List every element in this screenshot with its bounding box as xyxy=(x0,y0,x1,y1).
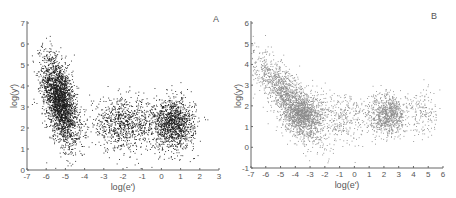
svg-text:1: 1 xyxy=(245,123,250,132)
svg-text:3: 3 xyxy=(217,172,222,181)
svg-text:2: 2 xyxy=(382,170,387,179)
svg-text:1: 1 xyxy=(367,170,372,179)
svg-text:1: 1 xyxy=(178,172,183,181)
svg-text:4: 4 xyxy=(21,82,26,91)
svg-text:-2: -2 xyxy=(321,170,329,179)
plot-b-points xyxy=(251,35,440,163)
svg-text:4: 4 xyxy=(245,60,250,69)
y-axis-label: log(y') xyxy=(233,84,243,108)
svg-text:2: 2 xyxy=(21,124,26,133)
svg-text:4: 4 xyxy=(411,170,416,179)
y-axis-label: log(y') xyxy=(9,84,19,108)
svg-text:5: 5 xyxy=(426,170,431,179)
svg-text:-2: -2 xyxy=(119,172,127,181)
svg-text:6: 6 xyxy=(21,40,26,49)
svg-text:-3: -3 xyxy=(100,172,108,181)
svg-text:2: 2 xyxy=(198,172,203,181)
svg-text:7: 7 xyxy=(21,19,26,28)
x-axis-label: log(e') xyxy=(111,182,136,192)
svg-text:-4: -4 xyxy=(81,172,89,181)
svg-text:0: 0 xyxy=(352,170,357,179)
svg-text:2: 2 xyxy=(245,102,250,111)
axis-ticks: -7-6-5-4-3-2-10123456-10123456 xyxy=(242,19,446,179)
svg-text:-4: -4 xyxy=(292,170,300,179)
svg-text:-5: -5 xyxy=(62,172,70,181)
svg-text:-3: -3 xyxy=(307,170,315,179)
svg-text:-1: -1 xyxy=(242,164,250,173)
svg-text:5: 5 xyxy=(21,61,26,70)
panel-label: B xyxy=(431,11,437,21)
svg-text:1: 1 xyxy=(21,145,26,154)
svg-text:3: 3 xyxy=(245,81,250,90)
svg-text:3: 3 xyxy=(21,103,26,112)
panel-label: A xyxy=(213,14,219,24)
svg-text:0: 0 xyxy=(245,143,250,152)
svg-text:-1: -1 xyxy=(139,172,147,181)
svg-text:0: 0 xyxy=(159,172,164,181)
svg-text:-1: -1 xyxy=(336,170,344,179)
svg-text:6: 6 xyxy=(441,170,446,179)
svg-text:3: 3 xyxy=(396,170,401,179)
x-axis-label: log(e') xyxy=(335,180,360,190)
svg-text:-6: -6 xyxy=(262,170,270,179)
svg-text:-5: -5 xyxy=(277,170,285,179)
svg-text:0: 0 xyxy=(21,166,26,175)
svg-text:5: 5 xyxy=(245,40,250,49)
svg-text:-6: -6 xyxy=(43,172,51,181)
scatter-plot-a: -7-6-5-4-3-2-1012301234567 log(e') log(y… xyxy=(0,0,228,198)
scatter-plot-b: -7-6-5-4-3-2-10123456-10123456 log(e') l… xyxy=(228,0,456,198)
plot-a-points xyxy=(32,36,208,169)
svg-text:6: 6 xyxy=(245,19,250,28)
